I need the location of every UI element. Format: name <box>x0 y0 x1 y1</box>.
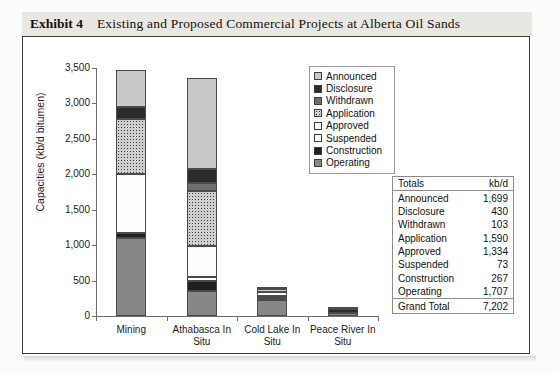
y-tick-label: 3,000 <box>46 97 90 108</box>
totals-row-value: 1,707 <box>483 286 508 297</box>
legend-item-label: Application <box>326 108 375 119</box>
stacked-bar <box>187 78 217 316</box>
legend-item-label: Construction <box>326 145 382 156</box>
totals-row-label: Announced <box>398 193 449 204</box>
legend-item-disclosure[interactable]: Disclosure <box>314 82 390 94</box>
bar-segment-withdrawn <box>187 183 217 190</box>
y-tick-label: 1,500 <box>46 204 90 215</box>
x-tick <box>378 316 379 321</box>
totals-table: Totals kb/d Announced1,699Disclosure430W… <box>392 176 514 314</box>
stacked-bar <box>116 70 146 316</box>
bar-segment-announced <box>187 78 217 169</box>
totals-row: Announced1,699 <box>393 191 513 204</box>
totals-row: Operating1,707 <box>393 285 513 298</box>
totals-row-value: 430 <box>491 206 508 217</box>
legend-swatch-icon <box>314 122 322 130</box>
legend-item-application[interactable]: Application <box>314 107 390 119</box>
totals-row-value: 267 <box>491 273 508 284</box>
bar-segment-announced <box>116 70 146 107</box>
page-shadow <box>24 356 536 362</box>
legend-swatch-icon <box>314 85 322 93</box>
totals-row: Withdrawn103 <box>393 218 513 231</box>
grand-total-label: Grand Total <box>398 301 450 312</box>
legend-item-label: Approved <box>326 120 369 131</box>
totals-row-label: Suspended <box>398 259 449 270</box>
bar-segment-disclosure <box>328 309 358 313</box>
y-tick-label: 0 <box>46 310 90 321</box>
totals-row-label: Approved <box>398 246 441 257</box>
legend-swatch-icon <box>314 97 322 105</box>
totals-row: Application1,590 <box>393 232 513 245</box>
legend-item-label: Announced <box>326 71 377 82</box>
totals-row-label: Operating <box>398 286 442 297</box>
bar-segment-operating <box>328 313 358 316</box>
x-category-label: Athabasca In Situ <box>164 324 240 348</box>
legend-item-label: Withdrawn <box>326 95 373 106</box>
totals-row: Suspended73 <box>393 258 513 271</box>
legend-item-suspended[interactable]: Suspended <box>314 132 390 144</box>
x-category-label: Mining <box>93 324 169 336</box>
exhibit-title: Existing and Proposed Commercial Project… <box>97 16 460 32</box>
totals-row-label: Disclosure <box>398 206 445 217</box>
totals-row: Approved1,334 <box>393 245 513 258</box>
y-tick-label: 3,500 <box>46 62 90 73</box>
bar-segment-construction <box>187 281 217 292</box>
totals-row-label: Construction <box>398 273 454 284</box>
x-tick <box>96 316 97 321</box>
y-tick-label: 500 <box>46 275 90 286</box>
exhibit-figure: Exhibit 4 Existing and Proposed Commerci… <box>0 0 559 374</box>
legend-item-withdrawn[interactable]: Withdrawn <box>314 95 390 107</box>
totals-row-value: 1,699 <box>483 193 508 204</box>
legend-swatch-icon <box>314 72 322 80</box>
totals-row-value: 73 <box>497 259 508 270</box>
totals-grand-row: Grand Total 7,202 <box>393 298 513 312</box>
bar-segment-disclosure <box>257 287 287 289</box>
legend-swatch-icon <box>314 134 322 142</box>
chart-legend: AnnouncedDisclosureWithdrawnApplicationA… <box>309 66 395 174</box>
totals-row: Construction267 <box>393 272 513 285</box>
y-tick-label: 1,000 <box>46 239 90 250</box>
legend-item-label: Disclosure <box>326 83 373 94</box>
bar-segment-approved <box>257 292 287 297</box>
stacked-bar <box>257 289 287 316</box>
bar-segment-disclosure <box>116 107 146 119</box>
bar-segment-application <box>187 191 217 246</box>
x-tick <box>237 316 238 321</box>
totals-row: Disclosure430 <box>393 205 513 218</box>
legend-item-announced[interactable]: Announced <box>314 70 390 82</box>
legend-swatch-icon <box>314 147 322 155</box>
totals-row-value: 103 <box>491 219 508 230</box>
totals-header-name: Totals <box>398 178 424 189</box>
bar-segment-operating <box>187 291 217 316</box>
bar-segment-operating <box>116 238 146 316</box>
bar-segment-suspended <box>187 277 217 280</box>
bar-segment-construction <box>257 298 287 300</box>
totals-header-row: Totals kb/d <box>393 177 513 191</box>
bar-segment-application <box>257 289 287 291</box>
legend-swatch-icon <box>314 159 322 167</box>
legend-item-label: Suspended <box>326 133 377 144</box>
bar-segment-construction <box>116 233 146 238</box>
totals-header-unit: kb/d <box>489 178 508 189</box>
totals-row-label: Application <box>398 233 447 244</box>
bar-segment-approved <box>187 246 217 278</box>
grand-total-value: 7,202 <box>483 301 508 312</box>
totals-row-value: 1,334 <box>483 246 508 257</box>
x-category-label: Peace River In Situ <box>305 324 381 348</box>
chart-plot-area: Capacities (kb/d bitumen) 05001,0001,500… <box>22 36 530 354</box>
bar-segment-announced <box>328 307 358 309</box>
x-category-label: Cold Lake In Situ <box>234 324 310 348</box>
legend-item-operating[interactable]: Operating <box>314 157 390 169</box>
stacked-bar <box>328 307 358 316</box>
legend-item-label: Operating <box>326 157 370 168</box>
totals-row-value: 1,590 <box>483 233 508 244</box>
exhibit-label: Exhibit 4 <box>30 16 83 32</box>
bar-segment-application <box>116 119 146 174</box>
y-tick-label: 2,000 <box>46 168 90 179</box>
bar-segment-suspended <box>257 296 287 298</box>
x-tick <box>167 316 168 321</box>
totals-row-label: Withdrawn <box>398 219 445 230</box>
y-axis-tick-labels: 05001,0001,5002,0002,5003,0003,500 <box>38 68 90 316</box>
legend-item-approved[interactable]: Approved <box>314 120 390 132</box>
legend-item-construction[interactable]: Construction <box>314 144 390 156</box>
